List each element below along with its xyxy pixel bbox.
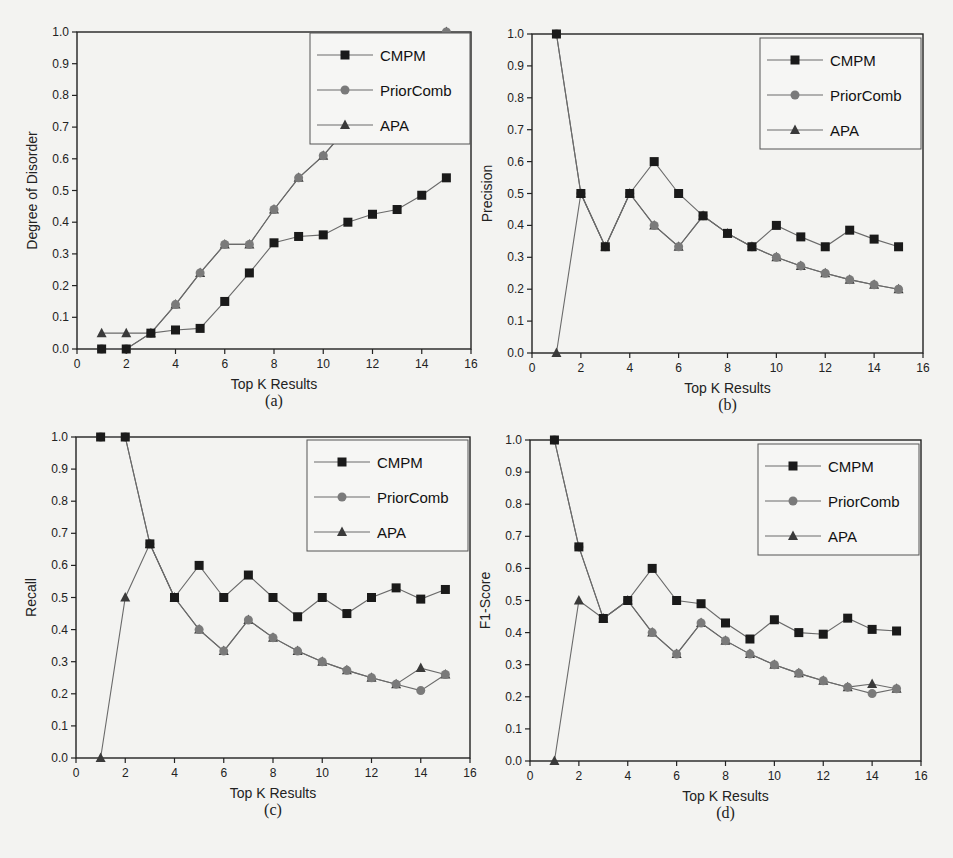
x-tick-label: 8 (724, 361, 731, 375)
y-tick-label: 0.9 (507, 59, 524, 73)
circle-marker (244, 615, 253, 624)
square-marker (821, 242, 830, 251)
circle-marker (721, 636, 730, 645)
y-tick-label: 0.6 (505, 561, 522, 575)
panel-caption: (b) (718, 396, 737, 414)
legend-label-priorcomb: PriorComb (828, 493, 900, 510)
y-tick-label: 0.0 (52, 342, 69, 356)
square-marker (146, 329, 155, 338)
y-tick-label: 0.7 (52, 120, 69, 134)
square-marker (723, 229, 732, 238)
square-marker (574, 542, 583, 551)
y-tick-label: 0.0 (51, 751, 68, 765)
x-tick-label: 2 (576, 769, 583, 783)
circle-marker (745, 650, 754, 659)
legend-label-apa: APA (830, 122, 859, 139)
y-tick-label: 0.2 (52, 279, 69, 293)
triangle-marker (121, 328, 131, 338)
square-marker (342, 609, 351, 618)
series-line (101, 544, 446, 758)
y-tick-label: 0.9 (52, 57, 69, 71)
legend: CMPMPriorCombAPA (758, 444, 919, 555)
y-tick-label: 0.3 (505, 658, 522, 672)
circle-marker (219, 647, 228, 656)
circle-marker (367, 673, 376, 682)
x-tick-label: 2 (122, 766, 129, 780)
square-marker (442, 173, 451, 182)
square-marker (576, 189, 585, 198)
y-tick-label: 0.5 (52, 184, 69, 198)
x-tick-label: 0 (529, 361, 536, 375)
circle-marker (294, 173, 303, 182)
y-tick-label: 1.0 (52, 25, 69, 39)
y-axis-title: Precision (479, 165, 495, 223)
circle-marker (392, 680, 401, 689)
square-marker (195, 561, 204, 570)
square-marker (121, 433, 130, 442)
square-marker (843, 614, 852, 623)
y-axis-title: F1-Score (477, 572, 493, 630)
x-tick-label: 14 (414, 766, 428, 780)
square-marker (269, 593, 278, 602)
y-tick-label: 0.4 (51, 623, 68, 637)
x-tick-label: 10 (316, 766, 330, 780)
square-marker (294, 232, 303, 241)
y-tick-label: 0.7 (505, 529, 522, 543)
legend-label-cmpm: CMPM (380, 47, 426, 64)
series-line (556, 194, 898, 354)
circle-marker (416, 686, 425, 695)
square-marker (244, 571, 253, 580)
square-marker (674, 189, 683, 198)
x-axis-title: Top K Results (231, 376, 317, 392)
circle-legend-icon (789, 497, 798, 506)
panel-caption: (d) (716, 804, 735, 822)
x-tick-label: 0 (74, 357, 81, 371)
circle-marker (821, 269, 830, 278)
square-marker (772, 221, 781, 230)
y-tick-label: 0.0 (505, 754, 522, 768)
square-marker (699, 211, 708, 220)
y-tick-label: 1.0 (507, 27, 524, 41)
y-tick-label: 0.0 (507, 346, 524, 360)
panel-caption: (a) (265, 392, 283, 410)
x-tick-label: 16 (914, 769, 928, 783)
x-tick-label: 2 (123, 357, 130, 371)
square-marker (721, 618, 730, 627)
series-apa (96, 538, 451, 762)
triangle-marker (97, 328, 107, 338)
square-marker (819, 630, 828, 639)
triangle-marker (416, 663, 426, 673)
y-tick-label: 0.3 (507, 250, 524, 264)
y-tick-label: 0.1 (51, 719, 68, 733)
x-tick-label: 16 (463, 766, 477, 780)
square-marker (367, 593, 376, 602)
circle-marker (770, 660, 779, 669)
y-tick-label: 0.6 (51, 558, 68, 572)
square-marker (870, 235, 879, 244)
square-marker (343, 218, 352, 227)
circle-marker (772, 253, 781, 262)
x-tick-label: 6 (220, 766, 227, 780)
circle-marker (796, 261, 805, 270)
circle-marker (195, 625, 204, 634)
y-tick-label: 0.5 (505, 594, 522, 608)
x-tick-label: 12 (817, 769, 831, 783)
y-tick-label: 0.8 (505, 497, 522, 511)
x-axis-title: Top K Results (230, 785, 316, 801)
circle-marker (196, 268, 205, 277)
figure-canvas: 02468101214160.00.10.20.30.40.50.60.70.8… (0, 0, 953, 858)
x-axis-title: Top K Results (682, 788, 768, 804)
x-tick-label: 10 (768, 769, 782, 783)
y-tick-label: 0.7 (507, 123, 524, 137)
circle-marker (269, 633, 278, 642)
circle-marker (245, 240, 254, 249)
x-tick-label: 16 (464, 357, 478, 371)
square-marker (770, 615, 779, 624)
y-tick-label: 0.4 (52, 215, 69, 229)
panel-caption: (c) (264, 801, 282, 819)
y-tick-label: 0.1 (505, 722, 522, 736)
legend-label-priorcomb: PriorComb (830, 87, 902, 104)
x-tick-label: 10 (770, 361, 784, 375)
square-marker (441, 585, 450, 594)
chart-panel-d: 02468101214160.00.10.20.30.40.50.60.70.8… (477, 433, 928, 822)
